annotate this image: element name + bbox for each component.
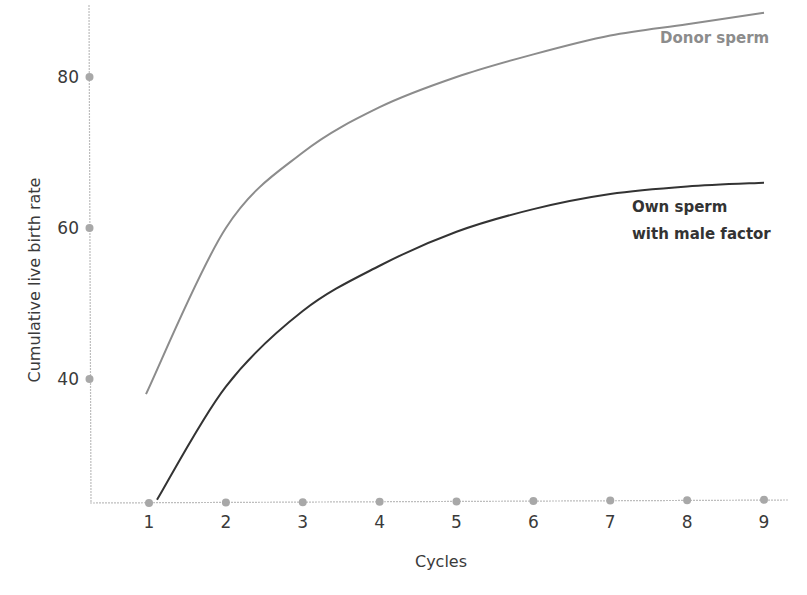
own-sperm-label-line2: with male factor xyxy=(632,225,771,243)
x-tick-label: 6 xyxy=(528,512,539,532)
y-tick-dot xyxy=(86,224,94,232)
y-tick-dot xyxy=(86,375,94,383)
x-tick-dot xyxy=(606,497,614,505)
x-tick-labels: 123456789 xyxy=(144,512,770,532)
x-tick-label: 2 xyxy=(220,512,231,532)
x-tick-dot xyxy=(760,496,768,504)
x-tick-label: 7 xyxy=(605,512,616,532)
x-tick-dot xyxy=(299,498,307,506)
x-tick-label: 5 xyxy=(451,512,462,532)
y-tick-label: 40 xyxy=(57,369,79,389)
y-tick-label: 60 xyxy=(57,218,79,238)
x-tick-label: 4 xyxy=(374,512,385,532)
donor-sperm-label: Donor sperm xyxy=(660,29,769,47)
x-tick-label: 3 xyxy=(297,512,308,532)
x-tick-dot xyxy=(529,497,537,505)
chart: 406080 123456789 Cycles Cumulative live … xyxy=(0,0,807,595)
x-tick-dots xyxy=(145,496,768,507)
x-tick-dot xyxy=(145,499,153,507)
x-tick-dot xyxy=(376,498,384,506)
y-tick-label: 80 xyxy=(57,67,79,87)
y-tick-dot xyxy=(86,73,94,81)
y-axis-title: Cumulative live birth rate xyxy=(25,178,44,383)
x-tick-dot xyxy=(683,496,691,504)
x-tick-dot xyxy=(222,499,230,507)
x-tick-label: 1 xyxy=(144,512,155,532)
x-tick-label: 8 xyxy=(682,512,693,532)
x-axis-title: Cycles xyxy=(415,552,467,571)
y-tick-labels: 406080 xyxy=(57,67,79,389)
x-tick-dot xyxy=(453,497,461,505)
x-tick-label: 9 xyxy=(759,512,770,532)
own-sperm-label-line1: Own sperm xyxy=(632,198,727,216)
